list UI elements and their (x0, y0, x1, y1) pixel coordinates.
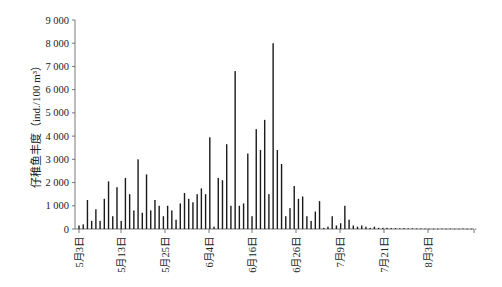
bar (315, 212, 316, 229)
bar (298, 199, 299, 229)
bar (323, 228, 324, 229)
bar (142, 213, 143, 229)
bar (369, 228, 370, 229)
bar (125, 178, 126, 229)
bar (184, 193, 185, 229)
x-tick-label: 5月25日 (160, 237, 171, 273)
bar (395, 228, 396, 229)
bar (196, 194, 197, 229)
bar (424, 229, 425, 230)
bar (99, 221, 100, 229)
bar (348, 220, 349, 229)
bar (361, 226, 362, 229)
bar (222, 180, 223, 229)
bar (201, 188, 202, 229)
bar (180, 203, 181, 229)
bar (374, 227, 375, 229)
bar (218, 178, 219, 229)
bar (310, 221, 311, 229)
bar (234, 71, 235, 229)
bar (188, 199, 189, 229)
bar (272, 43, 273, 229)
bar (357, 227, 358, 229)
bar (129, 194, 130, 229)
bar (83, 224, 84, 229)
bar (192, 202, 193, 229)
bar (91, 221, 92, 229)
bar (353, 226, 354, 229)
bar (154, 200, 155, 229)
bar (108, 181, 109, 229)
bar (302, 196, 303, 229)
x-tick-label: 7月9日 (335, 237, 346, 268)
bar (112, 216, 113, 229)
bar (251, 216, 252, 229)
bar (137, 159, 138, 229)
bar (146, 174, 147, 229)
y-tick-label: 3 000 (45, 154, 69, 165)
bar (412, 228, 413, 229)
bar (336, 226, 337, 229)
x-tick-label: 6月26日 (291, 237, 302, 273)
x-tick-label: 8月3日 (423, 237, 434, 268)
bar (471, 229, 472, 230)
bar (340, 223, 341, 229)
bar (87, 200, 88, 229)
bar (454, 229, 455, 230)
bar (205, 194, 206, 229)
bar (285, 216, 286, 229)
y-tick-label: 8 000 (45, 38, 69, 49)
bar (78, 226, 79, 229)
bar (158, 206, 159, 229)
bar (260, 150, 261, 229)
x-tick-label: 5月3日 (74, 237, 85, 268)
x-tick-label: 7月21日 (379, 237, 390, 273)
x-tick-label: 6月4日 (204, 237, 215, 268)
bar (243, 203, 244, 229)
bar (268, 194, 269, 229)
y-tick-label: 5 000 (45, 107, 69, 118)
bar (420, 229, 421, 230)
bar (95, 209, 96, 229)
bar (167, 206, 168, 229)
bar (407, 228, 408, 229)
bar (437, 229, 438, 230)
bar (133, 210, 134, 229)
bar (281, 164, 282, 229)
bar (277, 150, 278, 229)
y-tick-label: 1 000 (45, 200, 69, 211)
bar (230, 206, 231, 229)
bar (121, 221, 122, 229)
bar (171, 210, 172, 229)
x-axis: 5月3日5月13日5月25日6月4日6月16日6月26日7月9日7月21日8月3… (74, 229, 474, 273)
y-tick-label: 7 000 (45, 61, 69, 72)
bar (116, 187, 117, 229)
y-tick-label: 2 000 (45, 177, 69, 188)
bar (416, 229, 417, 230)
bar (445, 229, 446, 230)
bar (239, 206, 240, 229)
bar-series (78, 43, 476, 229)
bar (378, 228, 379, 229)
bar (213, 227, 214, 229)
bar (403, 228, 404, 229)
bar (332, 216, 333, 229)
bar (256, 129, 257, 229)
y-axis-label: 仔稚鱼丰度（ind./100 m³） (29, 60, 42, 188)
bar (382, 228, 383, 229)
y-tick-label: 6 000 (45, 84, 69, 95)
bar (344, 206, 345, 229)
bar (175, 220, 176, 229)
bar (391, 228, 392, 229)
bar (150, 210, 151, 229)
bar (163, 216, 164, 229)
bar (386, 228, 387, 229)
bar (327, 227, 328, 229)
bar (306, 216, 307, 229)
bar (475, 229, 476, 230)
bar (209, 137, 210, 229)
bar (264, 120, 265, 229)
bar (319, 201, 320, 229)
bar (104, 199, 105, 229)
bar (294, 186, 295, 229)
